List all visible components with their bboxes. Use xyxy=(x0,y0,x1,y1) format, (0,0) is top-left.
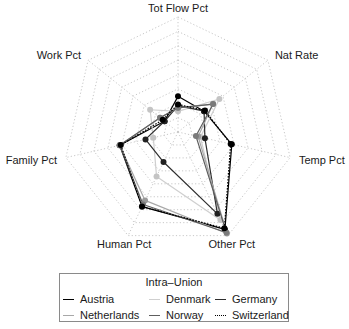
data-point xyxy=(193,133,199,139)
series-line-germany xyxy=(145,106,217,214)
axis-label-work-pct: Work Pct xyxy=(37,49,81,61)
legend-line-switzerland xyxy=(215,315,226,316)
data-point xyxy=(150,135,156,141)
axis-label-human-pct: Human Pct xyxy=(97,238,151,250)
legend-item-germany: Germany xyxy=(215,291,289,307)
data-point xyxy=(221,225,227,231)
grid-spoke xyxy=(178,60,268,132)
axis-label-other-pct: Other Pct xyxy=(209,238,255,250)
axis-label-nat-rate: Nat Rate xyxy=(275,49,318,61)
legend-item-switzerland: Switzerland xyxy=(215,307,289,323)
data-point xyxy=(154,174,160,180)
data-point xyxy=(175,101,181,107)
axis-label-tot-flow-pct: Tot Flow Pct xyxy=(148,2,208,14)
axis-label-temp-pct: Temp Pct xyxy=(299,154,345,166)
legend-label: Netherlands xyxy=(80,308,139,322)
legend-label: Austria xyxy=(80,292,114,306)
legend-label: Switzerland xyxy=(232,308,289,322)
data-point xyxy=(202,135,208,141)
series-line-switzerland xyxy=(121,104,231,228)
radar-grid xyxy=(66,17,290,236)
data-point xyxy=(210,101,216,107)
data-point xyxy=(160,117,166,123)
series-layer xyxy=(117,93,235,236)
data-point xyxy=(228,141,234,147)
data-point xyxy=(147,107,153,113)
legend-item-denmark: Denmark xyxy=(149,291,215,307)
grid-spoke xyxy=(128,132,178,236)
legend-line-austria xyxy=(63,299,74,300)
legend-line-norway xyxy=(149,315,160,316)
legend-line-germany xyxy=(215,299,226,300)
data-point xyxy=(118,142,124,148)
legend-line-netherlands xyxy=(63,315,74,316)
axis-label-family-pct: Family Pct xyxy=(6,154,57,166)
data-point xyxy=(175,93,181,99)
legend-label: Norway xyxy=(166,308,203,322)
legend-item-norway: Norway xyxy=(149,307,215,323)
data-point xyxy=(139,204,145,210)
legend-entries: Austria Denmark Germany Netherlands Norw… xyxy=(63,291,289,323)
legend-label: Germany xyxy=(232,292,277,306)
data-point xyxy=(161,159,167,165)
data-point xyxy=(202,107,208,113)
data-point xyxy=(216,96,222,102)
legend-title: Intra–Union xyxy=(60,276,288,289)
legend-item-netherlands: Netherlands xyxy=(63,307,149,323)
data-point xyxy=(142,136,148,142)
radar-plot: Tot Flow PctNat RateTemp PctOther PctHum… xyxy=(0,0,349,270)
legend: Intra–Union Austria Denmark Germany Neth… xyxy=(59,273,289,322)
legend-line-denmark xyxy=(149,299,160,300)
radar-svg: Tot Flow PctNat RateTemp PctOther PctHum… xyxy=(0,0,349,270)
legend-label: Denmark xyxy=(166,292,211,306)
legend-item-austria: Austria xyxy=(63,291,149,307)
